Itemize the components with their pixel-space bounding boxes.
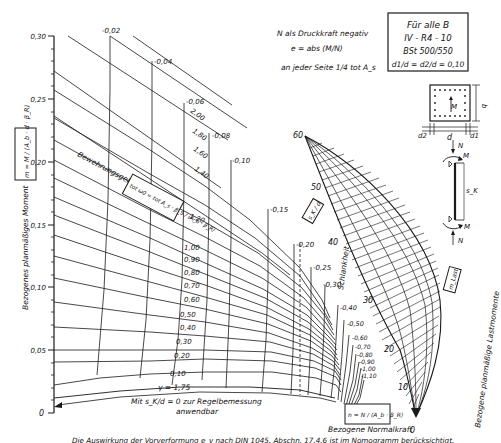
n-tick-015: -0,15 xyxy=(270,206,289,214)
section-d1-label: d1 xyxy=(470,132,479,140)
column-m-top-label: M xyxy=(463,152,469,160)
y-tick-010: 0,10 xyxy=(30,284,46,292)
reinforcement-formula: tot ω0 = tot A_s · β_S / (A_b · β_R) xyxy=(128,183,216,234)
load-moment-label: Bezogene planmäßige Lastmomente xyxy=(473,290,501,428)
n-tick-110: -1,10 xyxy=(361,372,377,379)
sk-tick-10: 10 xyxy=(398,383,408,392)
n-tick-080: -0,80 xyxy=(357,351,373,358)
slenderness-label: Schlankheit xyxy=(336,245,351,291)
section-d-label: d xyxy=(447,133,453,142)
w-tick-100: 1,00 xyxy=(184,244,200,252)
y-tick-030: 0,30 xyxy=(30,33,46,41)
normal-force-lines xyxy=(97,36,364,410)
w-tick-160: 1,60 xyxy=(192,145,210,161)
w-tick-060: 0,60 xyxy=(184,296,200,304)
section-m-label: M xyxy=(451,103,457,111)
section-b-label: b xyxy=(480,104,488,109)
n-tick-040: -0,40 xyxy=(340,304,357,312)
w-tick-020: 0,20 xyxy=(174,352,190,360)
w-tick-080: 0,80 xyxy=(184,269,200,277)
column-m-bottom-label: M xyxy=(464,223,470,231)
spec-line-1: Für alle B xyxy=(407,20,449,30)
y-tick-0: 0 xyxy=(39,409,44,418)
n-tick-004: -0,04 xyxy=(154,58,172,66)
sk-tick-30: 30 xyxy=(363,296,373,305)
sk-tick-60: 60 xyxy=(293,131,303,140)
n-tick-070: -0,70 xyxy=(355,343,371,350)
note-n-sign: N als Druckkraft negativ xyxy=(277,29,369,38)
y-tick-025: 0,25 xyxy=(30,96,46,104)
w-tick-050: 0,50 xyxy=(180,311,196,319)
regel-note-2: anwendbar xyxy=(176,407,219,416)
column-sk-label: s_K xyxy=(466,187,479,195)
nomogram-svg: 0 0,05 0,10 0,15 0,20 0,25 0,30 Bezogene… xyxy=(0,0,501,443)
spec-line-3: BSt 500/550 xyxy=(403,47,452,56)
n-tick-006: -0,06 xyxy=(186,98,205,106)
y-tick-020: 0,20 xyxy=(30,159,46,167)
gamma-label: γ = 1,75 xyxy=(158,383,190,392)
column-n-bottom-label: N xyxy=(458,237,464,245)
w-tick-040: 0,40 xyxy=(180,324,196,332)
sk-tick-50: 50 xyxy=(311,183,321,192)
w-tick-030: 0,30 xyxy=(176,338,192,346)
n-tick-010: -0,10 xyxy=(232,157,251,165)
n-tick-060: -0,60 xyxy=(352,334,368,341)
n-tick-090: -0,90 xyxy=(359,358,375,365)
y-axis: 0 0,05 0,10 0,15 0,20 0,25 0,30 Bezogene… xyxy=(15,33,54,418)
nomogram: 0 0,05 0,10 0,15 0,20 0,25 0,30 Bezogene… xyxy=(0,0,501,443)
y-tick-015: 0,15 xyxy=(30,222,46,230)
w-tick-010: 0,10 xyxy=(170,370,186,378)
n-tick-100: -1,00 xyxy=(360,365,376,372)
section-d2-label: d2 xyxy=(418,132,427,140)
w-tick-090: 0,90 xyxy=(184,256,200,264)
cross-section-labels: M b d d2 d1 N M s_K M N xyxy=(418,103,488,245)
note-e-def: e = abs (M/N) xyxy=(291,44,343,53)
spec-line-2: IV - R4 - 10 xyxy=(404,33,451,43)
n-tick-050: -0,50 xyxy=(347,320,364,328)
w-tick-180: 1,80 xyxy=(191,127,209,143)
moment-formula: m = M / (A_b · d · β_R) xyxy=(23,105,31,178)
n-tick-025: -0,25 xyxy=(313,264,332,272)
spec-line-4: d1/d = d2/d = 0,10 xyxy=(392,60,465,69)
reinforcement-label-group: Bewehrungsgehalt tot ω0 = tot A_s · β_S … xyxy=(76,150,220,240)
note-reinf: an jeder Seite 1/4 tot A_s xyxy=(281,63,376,72)
spec-box: Für alle B IV - R4 - 10 BSt 500/550 d1/d… xyxy=(388,13,468,71)
y-tick-005: 0,05 xyxy=(30,347,46,355)
n-tick-002: -0,02 xyxy=(102,27,121,35)
sk-tick-20: 20 xyxy=(384,345,394,354)
sk-tick-0: 0 xyxy=(410,426,415,435)
n-formula: n = N / (A_b · β_R) xyxy=(348,411,403,419)
footer-note: Die Auswirkung der Vorverformung e_v nac… xyxy=(72,436,454,443)
n-tick-020: -0,20 xyxy=(296,241,315,249)
y-axis-label: Bezogenes planmäßiges Moment xyxy=(21,184,30,310)
regel-note: Mit s_K/d = 0 zur Regelbemessung xyxy=(131,397,262,406)
w-tick-070: 0,70 xyxy=(184,282,200,290)
n-tick-008: -0,08 xyxy=(212,132,231,140)
n-axis-label: Bezogene Normalkraft xyxy=(328,425,413,434)
column-n-top-label: N xyxy=(458,142,464,150)
sk-tick-40: 40 xyxy=(328,238,338,247)
